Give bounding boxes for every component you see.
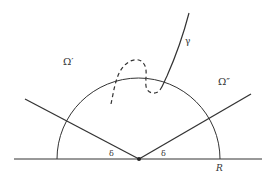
omega-double-prime-label: Ω″ <box>218 76 230 87</box>
delta-right-label: δ <box>161 149 166 158</box>
diagram-canvas: Ω′ Ω″ γ δ δ R <box>0 0 273 175</box>
semicircle-arc <box>57 78 220 159</box>
gamma-curve-solid <box>160 13 189 90</box>
radius-label: R <box>215 163 223 173</box>
delta-left-label: δ <box>109 149 114 158</box>
origin-point <box>137 157 141 161</box>
gamma-curve-dashed <box>111 60 160 104</box>
right-ray <box>139 94 251 159</box>
gamma-label: γ <box>185 36 190 46</box>
omega-prime-label: Ω′ <box>63 56 74 67</box>
left-ray <box>25 99 139 159</box>
